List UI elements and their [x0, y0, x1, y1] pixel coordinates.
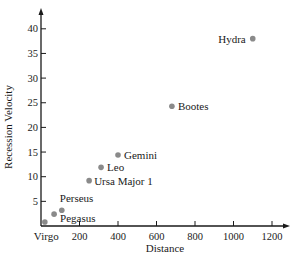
data-point-ursa-major-1: Ursa Major 1: [86, 175, 152, 187]
x-ticks: 20040060080010001200: [72, 221, 283, 242]
y-tick-label: 10: [28, 171, 39, 182]
y-axis-arrow-icon: [39, 8, 44, 15]
point-label: Virgo: [34, 230, 59, 242]
data-point-bootes: Bootes: [169, 100, 208, 112]
x-axis: [41, 224, 290, 229]
y-axis-title: Recession Velocity: [2, 85, 14, 169]
point-marker-icon: [250, 36, 256, 42]
x-tick-label: 600: [149, 231, 165, 242]
x-tick-label: 800: [187, 231, 203, 242]
point-marker-icon: [51, 211, 57, 217]
point-marker-icon: [115, 152, 121, 158]
point-label: Ursa Major 1: [94, 175, 153, 187]
point-label: Leo: [107, 161, 125, 173]
point-label: Hydra: [218, 33, 246, 45]
x-tick-label: 200: [72, 231, 88, 242]
y-tick-label: 30: [28, 73, 39, 84]
point-label: Perseus: [60, 192, 94, 204]
y-tick-label: 20: [28, 122, 39, 133]
point-marker-icon: [98, 165, 104, 171]
x-axis-title: Distance: [146, 242, 185, 254]
y-tick-label: 25: [28, 97, 39, 108]
x-axis-arrow-icon: [283, 224, 290, 229]
point-label: Gemini: [124, 149, 157, 161]
point-label: Bootes: [178, 100, 209, 112]
point-marker-icon: [169, 103, 175, 109]
y-tick-label: 35: [28, 48, 39, 59]
x-tick-label: 1000: [223, 231, 244, 242]
y-ticks: 510152025303540: [28, 23, 47, 207]
data-point-pegasus: Pegasus: [51, 211, 95, 224]
x-tick-label: 400: [110, 231, 126, 242]
y-tick-label: 5: [33, 196, 38, 207]
point-label: Pegasus: [60, 212, 95, 224]
point-marker-icon: [59, 207, 65, 213]
scatter-chart: 510152025303540 20040060080010001200 Vir…: [0, 0, 300, 261]
data-point-hydra: Hydra: [218, 33, 255, 45]
point-marker-icon: [86, 178, 92, 184]
y-tick-label: 15: [28, 147, 39, 158]
x-tick-label: 1200: [262, 231, 283, 242]
y-tick-label: 40: [28, 23, 39, 34]
data-point-perseus: Perseus: [59, 192, 93, 213]
data-point-gemini: Gemini: [115, 149, 157, 161]
y-axis: [39, 8, 44, 226]
data-point-virgo: Virgo: [34, 219, 59, 242]
data-point-leo: Leo: [98, 161, 124, 173]
point-marker-icon: [42, 219, 48, 225]
data-points: VirgoPegasusPerseusUrsa Major 1LeoGemini…: [34, 33, 256, 242]
